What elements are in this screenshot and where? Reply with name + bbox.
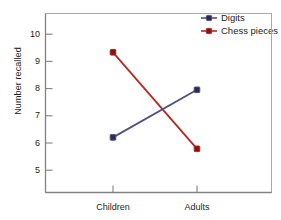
- plot-canvas: [0, 0, 281, 220]
- series-digits: [110, 87, 200, 140]
- plot-frame: [46, 14, 272, 193]
- data-point-chess-children: [110, 50, 116, 56]
- legend-marker-digits: [201, 15, 217, 20]
- series-chess-pieces-line: [113, 52, 197, 149]
- data-point-digits-adults: [194, 87, 200, 93]
- y-tick-marks: [46, 34, 53, 170]
- legend-marker-chess-pieces: [201, 28, 217, 33]
- series-chess-pieces: [110, 50, 200, 152]
- x-tick-marks: [113, 186, 197, 193]
- data-point-digits-children: [110, 135, 116, 141]
- data-point-chess-adults: [194, 146, 200, 152]
- series-digits-line: [113, 90, 197, 138]
- chart-figure: Number recalled 10 9 8 7 6 5 Children Ad…: [0, 0, 281, 220]
